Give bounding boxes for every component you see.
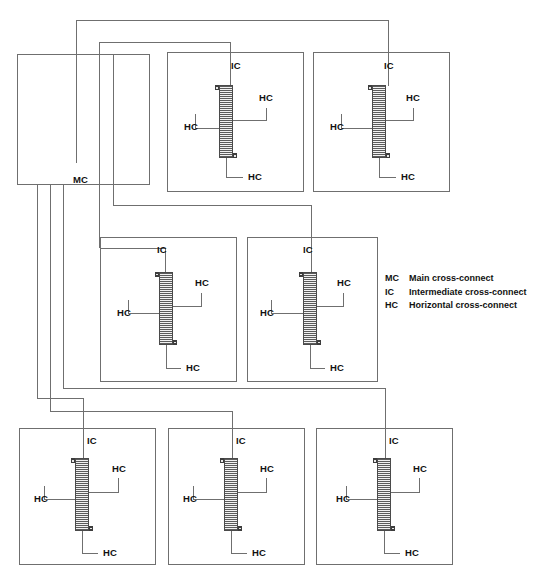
patch-panel-mid-right[interactable] (303, 272, 317, 345)
patch-panel-mid-left[interactable] (159, 272, 173, 345)
ic-label-mid-right: IC (303, 245, 313, 255)
hc-label-bottom-left-bottom: HC (103, 548, 117, 558)
main-cross-connect-box[interactable] (17, 54, 150, 185)
legend-desc-mc: Main cross-connect (409, 272, 494, 286)
patch-panel-top-right[interactable] (372, 85, 386, 158)
legend-row-ic: IC Intermediate cross-connect (385, 286, 527, 300)
ic-label-top-right: IC (384, 61, 394, 71)
hc-label-bottom-middle-right: HC (260, 464, 274, 474)
hc-label-bottom-middle-left: HC (183, 494, 197, 504)
hc-label-mid-left-bottom: HC (186, 363, 200, 373)
hc-label-bottom-right-right: HC (413, 464, 427, 474)
hc-label-mid-right-right: HC (337, 278, 351, 288)
main-cross-connect-label: MC (73, 175, 88, 185)
panel-tab-top-icon (155, 272, 159, 277)
hc-label-mid-right-left: HC (260, 308, 274, 318)
legend-abbr-ic: IC (385, 286, 409, 300)
legend-row-mc: MC Main cross-connect (385, 272, 527, 286)
legend: MC Main cross-connect IC Intermediate cr… (385, 272, 527, 313)
panel-tab-bottom-icon (391, 526, 395, 531)
hc-label-top-right-bottom: HC (401, 172, 415, 182)
diagram-canvas: MC IC HC HC HC IC HC HC HC IC HC HC HC I… (0, 0, 534, 577)
hc-label-mid-right-bottom: HC (330, 363, 344, 373)
legend-desc-hc: Horizontal cross-connect (409, 299, 517, 313)
ic-label-bottom-middle: IC (236, 436, 246, 446)
hc-label-bottom-left-left: HC (34, 494, 48, 504)
ic-label-bottom-left: IC (87, 436, 97, 446)
panel-tab-bottom-icon (89, 526, 93, 531)
hc-label-bottom-right-left: HC (336, 494, 350, 504)
panel-tab-bottom-icon (317, 340, 321, 345)
panel-tab-bottom-icon (233, 153, 237, 158)
legend-row-hc: HC Horizontal cross-connect (385, 299, 527, 313)
panel-tab-top-icon (215, 85, 219, 90)
legend-abbr-hc: HC (385, 299, 409, 313)
panel-tab-top-icon (373, 458, 377, 463)
hc-label-bottom-right-bottom: HC (405, 548, 419, 558)
ic-label-bottom-right: IC (389, 436, 399, 446)
panel-tab-top-icon (220, 458, 224, 463)
hc-label-bottom-middle-bottom: HC (252, 548, 266, 558)
wire-mc-to-ic-bot-left (37, 185, 83, 458)
panel-tab-top-icon (71, 458, 75, 463)
ic-label-top-left: IC (231, 61, 241, 71)
hc-label-top-left-left: HC (184, 122, 198, 132)
hc-label-top-right-right: HC (406, 93, 420, 103)
legend-desc-ic: Intermediate cross-connect (409, 286, 527, 300)
panel-tab-bottom-icon (173, 340, 177, 345)
patch-panel-top-left[interactable] (219, 85, 233, 158)
patch-panel-bottom-left[interactable] (75, 458, 89, 531)
hc-label-top-right-left: HC (330, 122, 344, 132)
patch-panel-bottom-middle[interactable] (224, 458, 238, 531)
patch-panel-bottom-right[interactable] (377, 458, 391, 531)
hc-label-mid-left-right: HC (195, 278, 209, 288)
hc-label-mid-left-left: HC (117, 308, 131, 318)
panel-tab-top-icon (299, 272, 303, 277)
ic-label-mid-left: IC (157, 245, 167, 255)
hc-label-top-left-bottom: HC (248, 172, 262, 182)
legend-abbr-mc: MC (385, 272, 409, 286)
hc-label-top-left-right: HC (259, 93, 273, 103)
panel-tab-top-icon (368, 85, 372, 90)
panel-tab-bottom-icon (386, 153, 390, 158)
hc-label-bottom-left-right: HC (112, 464, 126, 474)
panel-tab-bottom-icon (238, 526, 242, 531)
